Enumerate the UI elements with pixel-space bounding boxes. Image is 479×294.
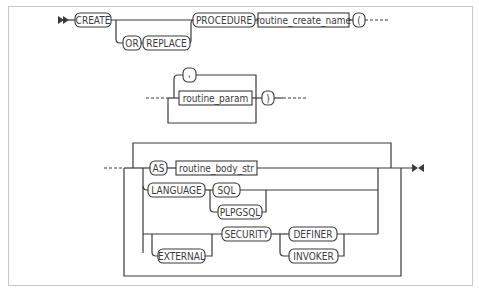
nonterminal-routine-create-name: routine_create_name	[256, 13, 351, 27]
nonterminal-routine-param: routine_param	[179, 91, 252, 105]
diagram-frame	[9, 7, 473, 286]
symbol-comma: ,	[183, 68, 196, 83]
keyword-or-label: OR	[125, 38, 138, 49]
symbol-open-paren: (	[353, 13, 365, 27]
keyword-definer: DEFINER	[289, 227, 337, 241]
keyword-procedure-label: PROCEDURE	[196, 15, 252, 26]
keyword-replace: REPLACE	[143, 36, 190, 50]
keyword-security-label: SECURITY	[224, 229, 269, 240]
keyword-sql-label: SQL	[218, 185, 236, 196]
routine-create-name-label: routine_create_name	[256, 15, 351, 27]
keyword-definer-label: DEFINER	[293, 229, 332, 240]
keyword-language-label: LANGUAGE	[151, 185, 202, 196]
keyword-procedure: PROCEDURE	[193, 13, 255, 27]
syntax-diagram: CREATE OR REPLACE PROCEDURE routine_crea…	[0, 0, 479, 294]
routine-param-label: routine_param	[183, 93, 249, 105]
keyword-invoker: INVOKER	[289, 249, 338, 263]
comma-label: ,	[188, 68, 191, 79]
keyword-as-label: AS	[153, 163, 165, 174]
symbol-close-paren: )	[262, 91, 274, 105]
keyword-plpgsql-label: PLPGSQL	[220, 207, 261, 218]
keyword-sql: SQL	[213, 183, 240, 197]
routine-body-str-label: routine_body_str	[179, 163, 254, 175]
keyword-create: CREATE	[75, 13, 111, 27]
keyword-create-label: CREATE	[76, 15, 111, 26]
keyword-replace-label: REPLACE	[146, 38, 187, 49]
close-paren-label: )	[266, 93, 270, 104]
keyword-or: OR	[123, 36, 141, 50]
keyword-security: SECURITY	[222, 227, 271, 241]
keyword-plpgsql: PLPGSQL	[218, 205, 262, 219]
keyword-external-label: EXTERNAL	[158, 251, 205, 262]
open-paren-label: (	[357, 15, 361, 26]
keyword-external: EXTERNAL	[158, 249, 205, 263]
keyword-invoker-label: INVOKER	[293, 251, 333, 262]
keyword-language: LANGUAGE	[148, 183, 205, 197]
nonterminal-routine-body-str: routine_body_str	[176, 161, 257, 175]
keyword-as: AS	[150, 161, 167, 175]
